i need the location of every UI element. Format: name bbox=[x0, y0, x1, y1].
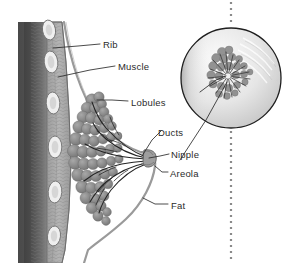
anatomy-illustration bbox=[0, 0, 286, 263]
leader-areola bbox=[155, 166, 168, 172]
magnified-nipple-inset bbox=[181, 28, 281, 128]
label-muscle: Muscle bbox=[118, 62, 149, 72]
label-fat: Fat bbox=[171, 201, 185, 211]
label-rib: Rib bbox=[103, 40, 118, 50]
figure-canvas: Rib Muscle Lobules Ducts Nipple Areola F… bbox=[0, 0, 286, 263]
label-lobules: Lobules bbox=[131, 98, 166, 108]
leader-fat bbox=[143, 198, 168, 204]
label-areola: Areola bbox=[170, 169, 199, 179]
label-nipple: Nipple bbox=[171, 150, 199, 160]
label-ducts: Ducts bbox=[158, 128, 183, 138]
